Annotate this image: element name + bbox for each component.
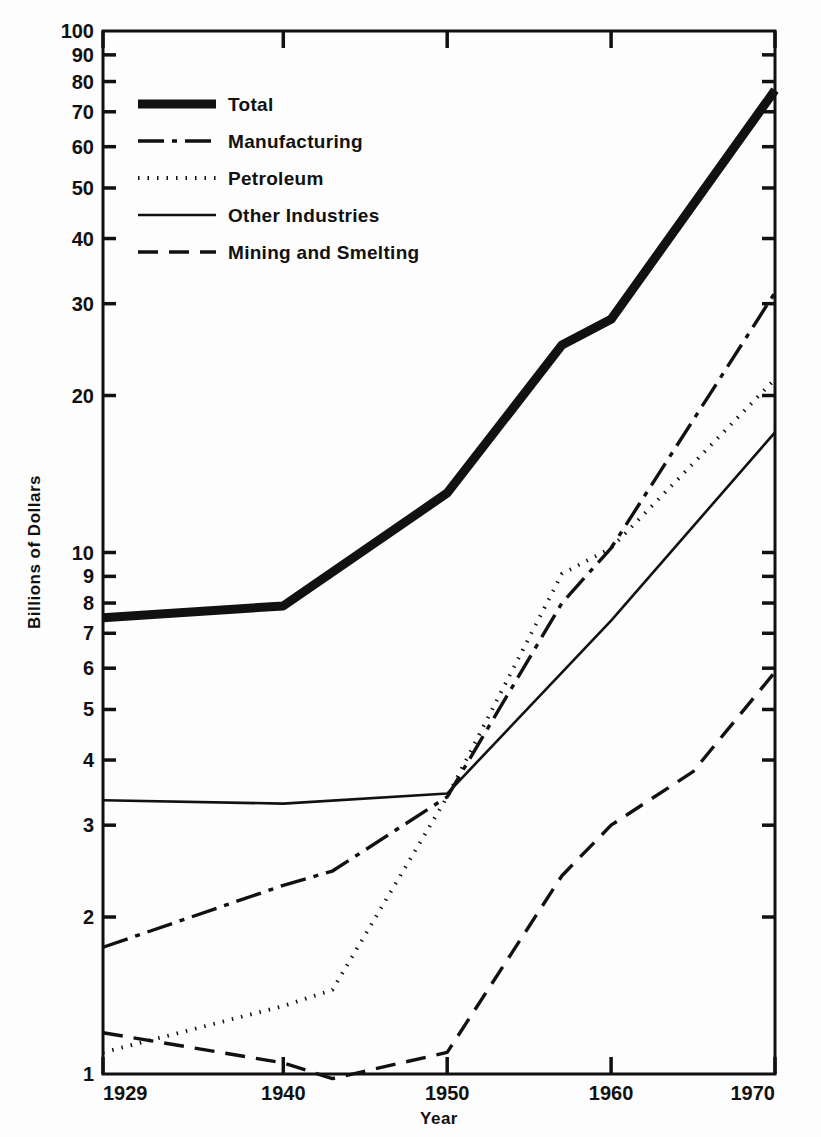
x-tick-label: 1929 <box>103 1082 148 1104</box>
series-line-total <box>103 90 775 617</box>
series-line-other-industries <box>103 432 775 803</box>
y-axis-title: Billions of Dollars <box>25 475 44 629</box>
series-line-mining-and-smelting <box>103 672 775 1079</box>
legend-label-manufacturing: Manufacturing <box>228 131 363 152</box>
y-tick-label: 7 <box>83 622 94 644</box>
y-tick-label: 9 <box>83 565 94 587</box>
plot-frame <box>103 31 775 1074</box>
x-tick-label: 1970 <box>731 1082 776 1104</box>
y-tick-label: 5 <box>83 698 94 720</box>
y-tick-label: 8 <box>83 592 94 614</box>
series-line-petroleum <box>103 379 775 1052</box>
x-axis-ticks <box>103 31 775 1074</box>
y-tick-label: 40 <box>72 228 94 250</box>
y-tick-label: 1 <box>83 1063 94 1085</box>
y-axis-ticks <box>103 55 775 917</box>
y-tick-label: 60 <box>72 136 94 158</box>
x-tick-label: 1960 <box>589 1082 634 1104</box>
y-tick-label: 100 <box>61 20 94 42</box>
y-tick-label: 30 <box>72 293 94 315</box>
y-tick-label: 70 <box>72 101 94 123</box>
y-tick-label: 6 <box>83 657 94 679</box>
legend-label-petroleum: Petroleum <box>228 168 324 189</box>
legend-label-mining-and-smelting: Mining and Smelting <box>228 242 419 263</box>
y-tick-label: 90 <box>72 44 94 66</box>
x-tick-label: 1940 <box>261 1082 306 1104</box>
legend: TotalManufacturingPetroleumOther Industr… <box>138 94 419 263</box>
chart-page: 123456789102030405060708090100 192919401… <box>0 0 821 1137</box>
x-tick-label: 1950 <box>425 1082 470 1104</box>
y-tick-label: 10 <box>72 542 94 564</box>
x-axis-title: Year <box>420 1109 458 1128</box>
legend-label-total: Total <box>228 94 273 115</box>
x-axis-tick-labels: 19291940195019601970 <box>103 1082 775 1104</box>
legend-label-other-industries: Other Industries <box>228 205 380 226</box>
y-tick-label: 20 <box>72 385 94 407</box>
y-axis-tick-labels: 123456789102030405060708090100 <box>61 20 95 1085</box>
y-tick-label: 80 <box>72 71 94 93</box>
y-tick-label: 50 <box>72 177 94 199</box>
line-chart: 123456789102030405060708090100 192919401… <box>0 0 821 1137</box>
data-series-group <box>103 90 775 1078</box>
y-tick-label: 2 <box>83 906 94 928</box>
series-line-manufacturing <box>103 293 775 948</box>
y-tick-label: 3 <box>83 814 94 836</box>
y-tick-label: 4 <box>83 749 95 771</box>
